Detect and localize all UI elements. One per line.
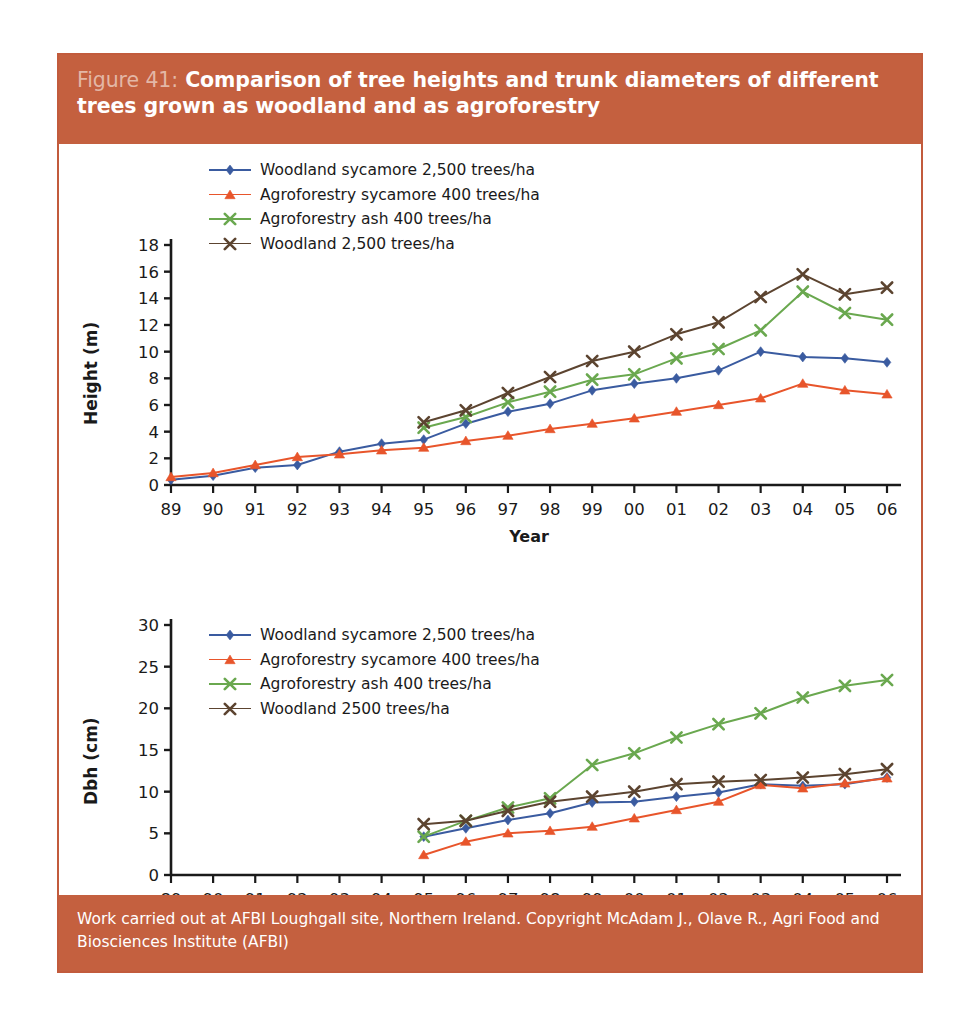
svg-text:16: 16: [138, 263, 159, 282]
svg-text:90: 90: [203, 500, 224, 519]
svg-text:20: 20: [138, 699, 159, 718]
legend-item[interactable]: Agroforestry ash 400 trees/ha: [209, 672, 540, 697]
svg-text:94: 94: [371, 500, 392, 519]
legend-label: Woodland 2,500 trees/ha: [260, 232, 455, 257]
figure-footer-band: Work carried out at AFBI Loughgall site,…: [59, 895, 921, 971]
legend-label: Agroforestry ash 400 trees/ha: [260, 207, 492, 232]
chart-height: 0246810121416188990919293949596979899000…: [59, 150, 925, 570]
figure-number: Figure 41:: [77, 68, 178, 92]
svg-text:0: 0: [149, 476, 160, 495]
legend-label: Woodland sycamore 2,500 trees/ha: [260, 623, 535, 648]
svg-text:95: 95: [413, 500, 434, 519]
legend-item[interactable]: Woodland sycamore 2,500 trees/ha: [209, 158, 540, 183]
legend-marker-diamond-icon: [209, 628, 251, 642]
legend-label: Agroforestry ash 400 trees/ha: [260, 672, 492, 697]
svg-text:0: 0: [149, 866, 160, 885]
legend-label: Woodland sycamore 2,500 trees/ha: [260, 158, 535, 183]
height-x-axis-title: Year: [171, 527, 887, 546]
svg-text:02: 02: [708, 500, 729, 519]
legend-item[interactable]: Woodland sycamore 2,500 trees/ha: [209, 623, 540, 648]
legend-marker-cross-icon: [209, 677, 251, 691]
svg-text:12: 12: [138, 316, 159, 335]
svg-text:4: 4: [149, 423, 160, 442]
svg-text:8: 8: [149, 369, 160, 388]
svg-text:97: 97: [497, 500, 518, 519]
legend-item[interactable]: Woodland 2500 trees/ha: [209, 697, 540, 722]
legend-marker-triangle-icon: [209, 653, 251, 667]
svg-text:00: 00: [624, 500, 645, 519]
legend-marker-cross-icon: [209, 237, 251, 251]
page-title: Figure 41: Comparison of tree heights an…: [77, 67, 903, 119]
legend-item[interactable]: Woodland 2,500 trees/ha: [209, 232, 540, 257]
legend-marker-triangle-icon: [209, 188, 251, 202]
height-y-axis-title: Height (m): [81, 322, 101, 425]
svg-text:93: 93: [329, 500, 350, 519]
height-legend: Woodland sycamore 2,500 trees/haAgrofore…: [209, 158, 540, 256]
svg-text:10: 10: [138, 783, 159, 802]
svg-text:91: 91: [245, 500, 266, 519]
svg-text:6: 6: [149, 396, 160, 415]
svg-text:05: 05: [834, 500, 855, 519]
svg-text:18: 18: [138, 236, 159, 255]
figure-title-band: Figure 41: Comparison of tree heights an…: [59, 55, 921, 144]
legend-label: Woodland 2500 trees/ha: [260, 697, 450, 722]
dbh-y-axis-title: Dbh (cm): [81, 717, 101, 805]
svg-text:06: 06: [877, 500, 898, 519]
legend-marker-cross-icon: [209, 702, 251, 716]
figure-card: Figure 41: Comparison of tree heights an…: [57, 53, 923, 973]
svg-text:2: 2: [149, 449, 160, 468]
svg-text:96: 96: [455, 500, 476, 519]
legend-label: Agroforestry sycamore 400 trees/ha: [260, 648, 540, 673]
svg-text:25: 25: [138, 658, 159, 677]
svg-text:30: 30: [138, 616, 159, 635]
legend-item[interactable]: Agroforestry sycamore 400 trees/ha: [209, 648, 540, 673]
legend-item[interactable]: Agroforestry sycamore 400 trees/ha: [209, 183, 540, 208]
svg-text:04: 04: [792, 500, 813, 519]
legend-label: Agroforestry sycamore 400 trees/ha: [260, 183, 540, 208]
svg-text:15: 15: [138, 741, 159, 760]
legend-item[interactable]: Agroforestry ash 400 trees/ha: [209, 207, 540, 232]
svg-text:99: 99: [582, 500, 603, 519]
svg-text:98: 98: [540, 500, 561, 519]
svg-text:89: 89: [161, 500, 182, 519]
svg-text:92: 92: [287, 500, 308, 519]
figure-title-text: Comparison of tree heights and trunk dia…: [77, 68, 878, 118]
dbh-legend: Woodland sycamore 2,500 trees/haAgrofore…: [209, 623, 540, 721]
svg-text:03: 03: [750, 500, 771, 519]
svg-text:10: 10: [138, 343, 159, 362]
legend-marker-diamond-icon: [209, 163, 251, 177]
figure-source-text: Work carried out at AFBI Loughgall site,…: [77, 910, 880, 951]
svg-text:01: 01: [666, 500, 687, 519]
legend-marker-cross-icon: [209, 212, 251, 226]
svg-text:5: 5: [149, 824, 160, 843]
svg-text:14: 14: [138, 289, 159, 308]
